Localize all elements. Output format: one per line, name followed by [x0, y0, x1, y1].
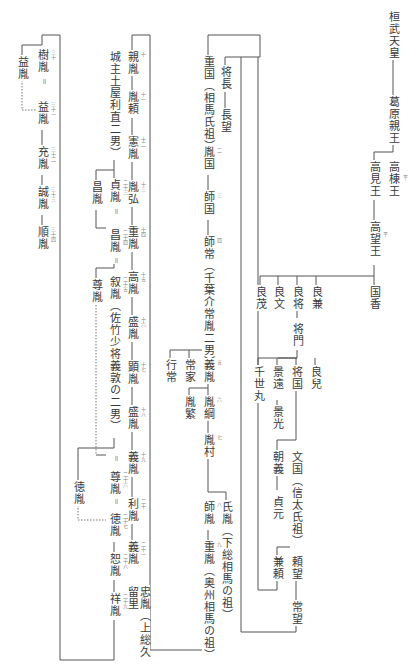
node-tanekuni: 胤国 [202, 145, 214, 171]
gen-label: 十五 [140, 272, 146, 282]
gen-label: 二十五 [122, 277, 128, 292]
node-masakuni: 将国 [290, 365, 302, 391]
node-tokitane: 尊胤 [108, 470, 120, 496]
node-chiyomaru: 千世丸 [252, 365, 264, 403]
node-masanaga: 将長 [219, 65, 231, 91]
node-morotsune: 師常（千葉介常胤二男） [202, 235, 214, 369]
gen-label: 四 [216, 238, 222, 243]
node-sadamoto: 貞元 [271, 495, 283, 521]
node-yoshikado: 良兒 [309, 365, 321, 391]
node-masatane2: 誠胤 [36, 185, 48, 211]
node-masutane-left: 益胤 [16, 55, 28, 81]
gen-label: 二十三 [122, 180, 128, 195]
gen-label: 三 [216, 193, 222, 198]
gen-label: 平 [382, 232, 388, 237]
gen-label: 三十二 [50, 147, 56, 162]
gen-label: 十八 [140, 407, 146, 417]
node-taneyori: 胤頼 [126, 90, 138, 116]
gen-label: 二十四 [122, 230, 128, 245]
gen-label: 十九 [140, 452, 146, 462]
node-yoshikane: 良兼 [310, 285, 322, 311]
node-kaneyori: 兼頼 [271, 555, 283, 581]
adoption-mark: ＝ [39, 78, 49, 85]
adoption-mark: ＝ [111, 208, 121, 215]
node-sadatane: 貞胤 [108, 178, 120, 204]
node-tsunemochi: 常望 [290, 600, 302, 626]
node-fumikuni: 文国（信太氏祖） [290, 450, 302, 548]
node-takamochi: 高望王 [368, 220, 380, 258]
gen-label: 十一 [140, 92, 146, 102]
node-morotane: 師胤 [202, 500, 214, 526]
gen-label: 十 [140, 52, 146, 57]
node-tanemura: 胤村 [202, 433, 214, 459]
gen-label: 九 [216, 542, 222, 547]
gen-label: 二十二 [140, 587, 146, 602]
node-yoshitane: 義胤 [202, 358, 214, 384]
node-yoshifumi: 良文 [272, 285, 284, 311]
gen-label: 三十 [50, 50, 56, 60]
gen-label: 十七 [140, 362, 146, 372]
node-masakado: 将門 [291, 322, 303, 348]
gen-label: 十二 [140, 137, 146, 147]
node-kageto: 景遠 [271, 365, 283, 391]
node-tokitane-left: 尊胤 [90, 278, 102, 304]
gen-label: 二十八 [122, 554, 128, 569]
node-tsuchiya-note: 城主土屋利直二男） [108, 50, 120, 160]
gen-label: 十三 [140, 182, 146, 192]
node-masatane-left: 昌胤 [90, 180, 102, 206]
node-akitane: 顕胤 [126, 360, 138, 386]
adoption-mark: ＝ [111, 498, 121, 505]
node-yorimochi: 頼望 [290, 555, 302, 581]
node-tomoyoshi: 朝義 [271, 450, 283, 476]
gen-label: 八 [216, 502, 222, 507]
gen-label: 平 [402, 175, 408, 180]
node-noritane: 徳胤 [108, 512, 120, 538]
node-tadatane: 忠胤（上総久留里 [126, 585, 150, 669]
node-kagemitsu: 景光 [271, 405, 283, 431]
gen-label: 三十四 [50, 227, 56, 242]
node-tomotane: 順胤 [36, 225, 48, 251]
node-nobutane: 叙胤（佐竹少将義敦の二男） [108, 275, 120, 433]
gen-label: 三十三 [50, 187, 56, 202]
gen-label: 二十六 [122, 472, 128, 487]
node-shigetane: 重胤（奥州相馬の祖） [202, 540, 214, 662]
node-tanetsuna: 胤綱 [202, 395, 214, 421]
node-takami: 高見王 [368, 160, 380, 198]
node-masatane: 昌胤 [108, 228, 120, 254]
adoption-mark: ＝ [111, 257, 121, 264]
node-shigekuni: 重国（相馬氏祖） [202, 55, 214, 153]
gen-label: 三十一 [50, 102, 56, 117]
gen-label: 二十 [140, 499, 146, 509]
gen-label: 二十七 [122, 514, 128, 529]
node-takamune: 高棟王 [387, 160, 399, 198]
gen-label: 十六 [140, 317, 146, 327]
gen-label: 二十一 [140, 542, 146, 557]
gen-label: 二十九 [122, 594, 128, 609]
node-moritane: 盛胤 [126, 315, 138, 341]
gen-label: 七 [216, 435, 222, 440]
node-ujitane: 氏胤（下総相馬の祖） [220, 500, 232, 622]
node-yoshimochi: 良茂 [254, 285, 266, 311]
node-yukitsune: 行常 [164, 358, 176, 384]
node-chikatane: 親胤 [126, 50, 138, 76]
node-nobutane2: 恕胤 [108, 552, 120, 578]
node-yoshimasa: 良将 [291, 285, 303, 311]
node-noritane-left: 徳胤 [72, 480, 84, 506]
node-kanmu: 桓武天皇 [387, 10, 399, 60]
node-kentane: 憲胤 [126, 135, 138, 161]
adoption-mark: ＝ [111, 455, 121, 462]
node-nagamochi: 長望 [219, 108, 231, 134]
gen-label: 二 [216, 148, 222, 153]
gen-label: 六 [216, 397, 222, 402]
node-morokuni: 師国 [202, 190, 214, 216]
node-kunika: 国香 [368, 285, 380, 311]
gen-label: 五 [216, 360, 222, 365]
node-masutane: 益胤 [36, 100, 48, 126]
node-yoshitane4: 祥胤 [108, 592, 120, 618]
node-moritane2: 盛胤 [126, 405, 138, 431]
node-mitsutane: 充胤 [36, 145, 48, 171]
node-taneshige: 胤繁 [183, 395, 195, 421]
node-kitane: 樹胤 [36, 48, 48, 74]
node-kazurahara: 葛原親王 [387, 95, 399, 145]
node-tsuneie: 常家 [183, 358, 195, 384]
